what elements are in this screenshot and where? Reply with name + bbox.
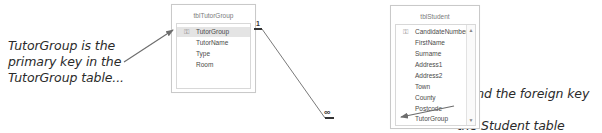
relationship-one-label: 1 bbox=[256, 20, 260, 28]
relationship-line bbox=[262, 29, 325, 118]
annotation-arrow-primary bbox=[124, 30, 173, 62]
connector-layer bbox=[0, 0, 602, 133]
annotation-arrow-foreign bbox=[401, 106, 454, 117]
relationship-diagram: TutorGroup is the primary key in the Tut… bbox=[0, 0, 602, 133]
relationship-many-label: ∞ bbox=[324, 108, 330, 116]
